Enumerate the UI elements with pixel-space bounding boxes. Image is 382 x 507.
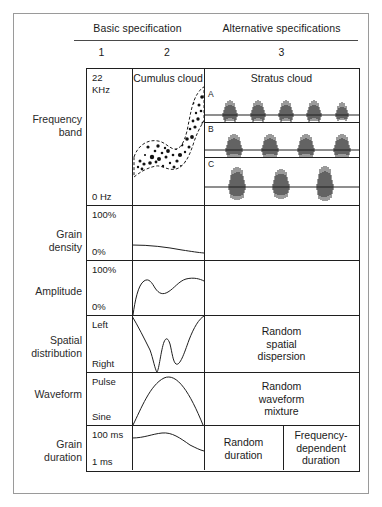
scale-max-amplitude: 100%: [92, 264, 116, 276]
header-group-titles: Basic specification Alternative specific…: [72, 20, 360, 39]
random-waveform-mixture-label: Random waveform mixture: [204, 380, 359, 418]
scale-sine: Sine: [92, 411, 111, 423]
column-number-2: 2: [131, 43, 203, 63]
row-label-grain-density: Grain density: [14, 228, 82, 253]
scale-max-grain-density: 100%: [92, 209, 116, 221]
amplitude-plot-cell: [132, 261, 204, 315]
specification-grid: 22 KHz 0 Hz Cumulus cloud: [86, 68, 360, 472]
amplitude-alt-cell: [204, 261, 359, 315]
header-rule: [74, 40, 358, 41]
scale-min-amplitude: 0%: [92, 301, 106, 313]
stratus-c-waveform: [204, 157, 359, 204]
stratus-cloud-cell: Stratus cloud A: [204, 69, 359, 205]
scale-waveform: Pulse Sine: [87, 373, 132, 425]
chart-header: Basic specification Alternative specific…: [72, 20, 360, 64]
stratus-variant-c: C: [204, 157, 359, 204]
spatial-distribution-plot-cell: [132, 316, 204, 372]
stratus-variant-b-label: B: [208, 124, 214, 134]
random-duration-cell: Random duration: [204, 426, 283, 470]
scale-max-frequency: 22 KHz: [92, 72, 110, 95]
waveform-alt-cell: Random waveform mixture: [204, 373, 359, 425]
cumulus-cloud-cell: Cumulus cloud: [132, 69, 204, 205]
scale-pulse: Pulse: [92, 376, 116, 388]
row-amplitude: 100% 0%: [87, 261, 359, 316]
stratus-variant-a: A: [204, 87, 359, 122]
scale-min-grain-density: 0%: [92, 246, 106, 258]
spatial-distribution-curve: [132, 316, 204, 373]
scale-right-channel: Right: [92, 358, 114, 370]
row-grain-density: 100% 0%: [87, 206, 359, 261]
row-label-grain-duration: Grain duration: [14, 438, 82, 463]
figure-root: Basic specification Alternative specific…: [0, 0, 382, 507]
stratus-variant-a-label: A: [208, 89, 214, 99]
stratus-b-waveform: [204, 122, 359, 157]
column-number-1: 1: [72, 43, 131, 63]
row-label-spatial-distribution: Spatial distribution: [14, 334, 82, 359]
grain-duration-plot-cell: [132, 426, 204, 470]
spatial-distribution-alt-cell: Random spatial dispersion: [204, 316, 359, 372]
stratus-a-waveform: [204, 87, 359, 122]
frequency-dependent-duration-cell: Frequency- dependent duration: [283, 426, 359, 470]
header-alternative-specifications: Alternative specifications: [203, 20, 360, 39]
scale-spatial-distribution: Left Right: [87, 316, 132, 372]
cumulus-cloud-title: Cumulus cloud: [132, 72, 204, 85]
frequency-dependent-duration-label: Frequency- dependent duration: [283, 429, 359, 467]
header-basic-specification: Basic specification: [72, 20, 203, 39]
grain-density-alt-cell: [204, 206, 359, 260]
scale-left-channel: Left: [92, 319, 108, 331]
scale-min-frequency: 0 Hz: [92, 191, 112, 203]
grain-density-curve: [132, 206, 204, 261]
scale-grain-density: 100% 0%: [87, 206, 132, 260]
row-label-frequency-band: Frequency band: [14, 113, 82, 138]
row-label-amplitude: Amplitude: [14, 285, 82, 298]
row-frequency-band: 22 KHz 0 Hz Cumulus cloud: [87, 69, 359, 206]
stratus-variant-c-label: C: [208, 159, 214, 169]
amplitude-curve: [132, 261, 204, 316]
stratus-cloud-title: Stratus cloud: [204, 72, 359, 85]
waveform-curve: [132, 373, 204, 426]
scale-amplitude: 100% 0%: [87, 261, 132, 315]
stratus-variant-b: B: [204, 122, 359, 157]
row-spatial-distribution: Left Right Random spatial dispersion: [87, 316, 359, 373]
scale-frequency-band: 22 KHz 0 Hz: [87, 69, 132, 205]
scale-grain-duration: 100 ms 1 ms: [87, 426, 132, 470]
row-label-waveform: Waveform: [14, 388, 82, 401]
random-duration-label: Random duration: [204, 436, 283, 461]
header-column-numbers: 1 2 3: [72, 43, 360, 63]
column-number-3: 3: [203, 43, 360, 63]
grain-density-plot-cell: [132, 206, 204, 260]
row-grain-duration: 100 ms 1 ms Random duration Frequency- d…: [87, 426, 359, 470]
scale-max-duration: 100 ms: [92, 429, 123, 441]
waveform-plot-cell: [132, 373, 204, 425]
scale-min-duration: 1 ms: [92, 456, 113, 468]
grain-duration-curve: [132, 426, 204, 470]
random-spatial-dispersion-label: Random spatial dispersion: [204, 325, 359, 363]
cumulus-cloud-plot: [132, 69, 204, 206]
row-waveform: Pulse Sine Random waveform mixture: [87, 373, 359, 426]
